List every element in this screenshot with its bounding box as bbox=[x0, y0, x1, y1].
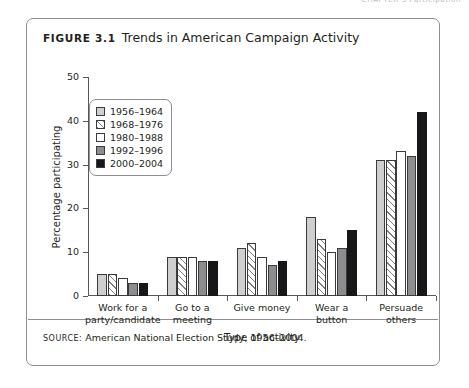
y-tick-label: 20 bbox=[57, 202, 79, 213]
figure-number: Figure 3.1 bbox=[43, 32, 116, 44]
bar bbox=[386, 160, 396, 296]
legend-label: 1956–1964 bbox=[110, 106, 163, 117]
figure-title-text: Trends in American Campaign Activity bbox=[122, 30, 360, 45]
legend-swatch-icon bbox=[96, 120, 105, 129]
x-group-tick bbox=[366, 296, 367, 301]
y-tick-label: 40 bbox=[57, 115, 79, 126]
x-group-tick bbox=[227, 296, 228, 301]
bar bbox=[407, 156, 417, 296]
legend-swatch-icon bbox=[96, 159, 105, 168]
bar bbox=[396, 151, 406, 296]
y-tick-label: 30 bbox=[57, 159, 79, 170]
legend-swatch-icon bbox=[96, 107, 105, 116]
y-axis-label-container: Percentage participating bbox=[49, 77, 63, 296]
x-category-label-line: meeting bbox=[150, 314, 236, 326]
y-tick-label: 0 bbox=[57, 290, 79, 301]
bar bbox=[417, 112, 427, 296]
x-category-label: Persuadeothers bbox=[358, 302, 444, 326]
running-head-text: CHAPTER 3 Participation bbox=[362, 0, 461, 4]
y-tick-label: 50 bbox=[57, 71, 79, 82]
figure-page: CHAPTER 3 Participation Figure 3.1Trends… bbox=[0, 0, 469, 388]
x-category-label-line: others bbox=[358, 314, 444, 326]
source-label: Source: bbox=[43, 334, 82, 343]
legend-label: 1968–1976 bbox=[110, 119, 163, 130]
x-group-tick bbox=[158, 296, 159, 301]
figure-title: Figure 3.1Trends in American Campaign Ac… bbox=[43, 30, 359, 45]
y-tick bbox=[83, 296, 88, 297]
legend-label: 1992–1996 bbox=[110, 145, 163, 156]
source-text: American National Election Study, 1956–2… bbox=[85, 332, 306, 343]
legend-swatch-icon bbox=[96, 133, 105, 142]
source-note: Source: American National Election Study… bbox=[43, 332, 307, 343]
x-group-tick bbox=[436, 296, 437, 301]
legend-label: 1980–1988 bbox=[110, 132, 163, 143]
legend: 1956–19641968–19761980–19881992–19962000… bbox=[89, 99, 172, 176]
x-group-tick bbox=[297, 296, 298, 301]
running-head: CHAPTER 3 Participation bbox=[0, 0, 469, 13]
legend-item: 2000–2004 bbox=[96, 157, 163, 170]
legend-label: 2000–2004 bbox=[110, 158, 163, 169]
legend-swatch-icon bbox=[96, 146, 105, 155]
legend-item: 1980–1988 bbox=[96, 131, 163, 144]
legend-item: 1992–1996 bbox=[96, 144, 163, 157]
figure-box: Figure 3.1Trends in American Campaign Ac… bbox=[26, 18, 440, 366]
x-category-label-line: Persuade bbox=[358, 302, 444, 314]
legend-item: 1956–1964 bbox=[96, 105, 163, 118]
y-tick-label: 10 bbox=[57, 246, 79, 257]
y-axis-label: Percentage participating bbox=[51, 125, 62, 248]
legend-item: 1968–1976 bbox=[96, 118, 163, 131]
bar bbox=[376, 160, 386, 296]
